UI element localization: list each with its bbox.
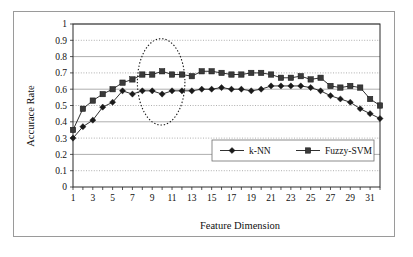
data-point-marker — [218, 84, 224, 90]
data-point-marker — [308, 77, 313, 82]
data-point-marker — [377, 115, 383, 121]
data-point-marker — [209, 69, 214, 74]
data-point-marker — [348, 83, 353, 88]
x-tick-label: 15 — [207, 193, 217, 203]
x-axis-title: Feature Dimension — [200, 220, 281, 231]
y-axis-title: Accurace Rate — [25, 85, 36, 147]
data-point-marker — [248, 88, 254, 94]
data-point-marker — [308, 84, 314, 90]
y-tick-label: 0.3 — [55, 134, 67, 144]
data-point-marker — [328, 83, 333, 88]
data-point-marker — [130, 77, 135, 82]
x-tick-label: 13 — [187, 193, 197, 203]
data-point-marker — [258, 86, 264, 92]
y-tick-label: 0.1 — [55, 166, 67, 176]
data-point-marker — [337, 96, 343, 102]
data-point-marker — [229, 72, 234, 77]
series-line-k-nn — [73, 86, 380, 138]
data-point-marker — [169, 72, 174, 77]
legend-label-k-nn: k-NN — [249, 146, 271, 156]
data-point-marker — [318, 75, 323, 80]
x-tick-label: 19 — [247, 193, 257, 203]
x-tick-label: 5 — [110, 193, 115, 203]
y-tick-label: 0.4 — [55, 117, 67, 127]
x-tick-label: 25 — [306, 193, 316, 203]
data-point-marker — [268, 72, 273, 77]
data-point-marker — [278, 75, 283, 80]
x-tick-label: 31 — [365, 193, 375, 203]
data-point-marker — [228, 86, 234, 92]
y-tick-label: 0.7 — [55, 68, 67, 78]
data-point-marker — [347, 99, 353, 105]
data-series-layer — [70, 69, 383, 142]
x-tick-label: 27 — [326, 193, 336, 203]
data-point-marker — [377, 103, 382, 108]
data-point-marker — [159, 91, 165, 97]
accuracy-rate-line-chart: 00.10.20.30.40.50.60.70.80.91 1357911131… — [14, 12, 396, 238]
data-point-marker — [150, 72, 155, 77]
data-point-marker — [367, 96, 372, 101]
data-point-marker — [209, 86, 215, 92]
data-point-marker — [258, 70, 263, 75]
data-point-marker — [249, 70, 254, 75]
data-point-marker — [169, 88, 175, 94]
x-tick-labels: 135791113151719212325272931 — [71, 193, 375, 203]
chart-plot-area: 00.10.20.30.40.50.60.70.80.91 1357911131… — [14, 12, 396, 238]
series-line-fuzzy-svm — [73, 71, 380, 130]
y-tick-label: 0.2 — [55, 150, 67, 160]
data-point-marker — [288, 75, 293, 80]
data-point-marker — [357, 85, 362, 90]
annotation-layer — [137, 39, 185, 125]
y-tick-label: 0.9 — [55, 36, 67, 46]
data-point-marker — [298, 83, 304, 89]
data-point-marker — [338, 85, 343, 90]
data-point-marker — [139, 88, 145, 94]
data-point-marker — [100, 91, 105, 96]
x-tick-label: 23 — [286, 193, 296, 203]
data-point-marker — [129, 91, 135, 97]
data-point-marker — [110, 87, 115, 92]
x-tick-label: 3 — [90, 193, 95, 203]
x-tick-label: 7 — [130, 193, 135, 203]
x-tick-label: 11 — [167, 193, 176, 203]
data-point-marker — [278, 83, 284, 89]
y-tick-label: 0 — [62, 182, 67, 192]
data-point-marker — [70, 127, 75, 132]
data-point-marker — [199, 69, 204, 74]
x-tick-label: 29 — [346, 193, 356, 203]
data-point-marker — [268, 83, 274, 89]
x-tick-label: 21 — [266, 193, 276, 203]
y-tick-label: 0.5 — [55, 101, 67, 111]
data-point-marker — [317, 88, 323, 94]
figure-frame: 00.10.20.30.40.50.60.70.80.91 1357911131… — [13, 11, 395, 237]
x-tick-label: 17 — [227, 193, 237, 203]
data-point-marker — [357, 106, 363, 112]
y-tick-label: 0.6 — [55, 85, 67, 95]
chart-legend: k-NNFuzzy-SVM — [212, 140, 374, 161]
data-point-marker — [327, 93, 333, 99]
y-tick-label: 0.8 — [55, 52, 67, 62]
data-point-marker — [367, 111, 373, 117]
data-point-marker — [189, 73, 194, 78]
data-point-marker — [199, 86, 205, 92]
data-point-marker — [120, 80, 125, 85]
data-point-marker — [159, 69, 164, 74]
data-point-marker — [238, 86, 244, 92]
data-point-marker — [288, 83, 294, 89]
data-point-marker — [80, 106, 85, 111]
data-point-marker — [140, 72, 145, 77]
data-point-marker — [149, 88, 155, 94]
x-tick-label: 1 — [71, 193, 76, 203]
square-marker — [305, 148, 310, 153]
y-tick-labels: 00.10.20.30.40.50.60.70.80.91 — [55, 19, 73, 192]
data-point-marker — [189, 88, 195, 94]
data-point-marker — [219, 70, 224, 75]
data-point-marker — [298, 73, 303, 78]
x-tick-label: 9 — [150, 193, 155, 203]
data-point-marker — [90, 98, 95, 103]
y-tick-label: 1 — [62, 19, 67, 29]
data-point-marker — [239, 72, 244, 77]
legend-label-fuzzy-svm: Fuzzy-SVM — [325, 146, 373, 156]
highlight-ellipse-icon — [137, 39, 185, 125]
